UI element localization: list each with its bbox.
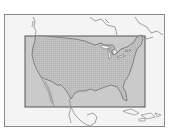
caribbean-islands [123,109,161,121]
north-america-map [5,15,165,127]
map-frame [4,14,165,127]
